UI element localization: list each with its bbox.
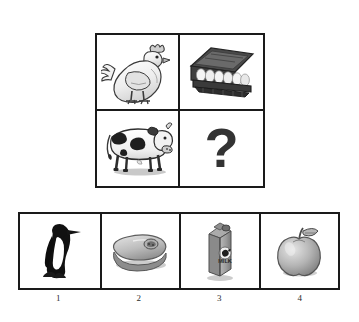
answer-label-2: 2 bbox=[99, 291, 180, 307]
matrix-grid: ? bbox=[95, 33, 265, 188]
answer-label-4: 4 bbox=[260, 291, 341, 307]
matrix-cell-top-left[interactable] bbox=[97, 35, 180, 111]
answer-option-4[interactable] bbox=[259, 214, 339, 288]
matrix-cell-top-right[interactable] bbox=[180, 35, 263, 111]
milk-carton-icon: MILK bbox=[201, 220, 239, 282]
matrix-cell-bottom-left[interactable] bbox=[97, 111, 180, 187]
answer-option-2[interactable] bbox=[100, 214, 180, 288]
answer-label-3: 3 bbox=[179, 291, 260, 307]
penguin-icon bbox=[36, 220, 84, 282]
matrix-cell-answer-slot[interactable]: ? bbox=[180, 111, 263, 187]
question-mark-icon: ? bbox=[204, 120, 238, 176]
answer-number-labels: 1 2 3 4 bbox=[18, 291, 340, 307]
answer-label-1: 1 bbox=[18, 291, 99, 307]
cow-icon bbox=[100, 117, 176, 179]
answer-option-1[interactable] bbox=[20, 214, 100, 288]
chicken-icon bbox=[101, 39, 175, 105]
steak-icon bbox=[109, 230, 171, 272]
apple-icon bbox=[273, 223, 325, 279]
answer-options-row: MILK bbox=[18, 212, 340, 290]
egg-carton-icon bbox=[185, 42, 259, 102]
answer-option-3[interactable]: MILK bbox=[179, 214, 259, 288]
